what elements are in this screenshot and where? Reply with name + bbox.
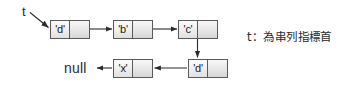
node-pointer-cell — [208, 60, 227, 77]
list-node: 'b' — [113, 20, 153, 39]
null-label: null — [64, 61, 87, 75]
list-node: 'c' — [178, 20, 218, 39]
node-pointer-cell — [70, 21, 89, 38]
node-pointer-cell — [133, 60, 152, 77]
node-value: 'd' — [189, 60, 208, 77]
node-value: 'd' — [51, 21, 70, 38]
node-value: 'b' — [114, 21, 133, 38]
node-pointer-cell — [198, 21, 217, 38]
list-node: 'd' — [188, 59, 228, 78]
linked-list-diagram: t null t：為串列指標首 'd' 'b' 'c' 'd' 'x' — [0, 0, 363, 86]
pointer-label-t: t — [22, 5, 26, 18]
list-node: 'd' — [50, 20, 90, 39]
node-value: 'x' — [114, 60, 133, 77]
list-node: 'x' — [113, 59, 153, 78]
node-pointer-cell — [133, 21, 152, 38]
arrow-t-to-node-d1 — [30, 13, 49, 28]
node-value: 'c' — [179, 21, 198, 38]
caption-pointer-description: t：為串列指標首 — [247, 32, 332, 44]
